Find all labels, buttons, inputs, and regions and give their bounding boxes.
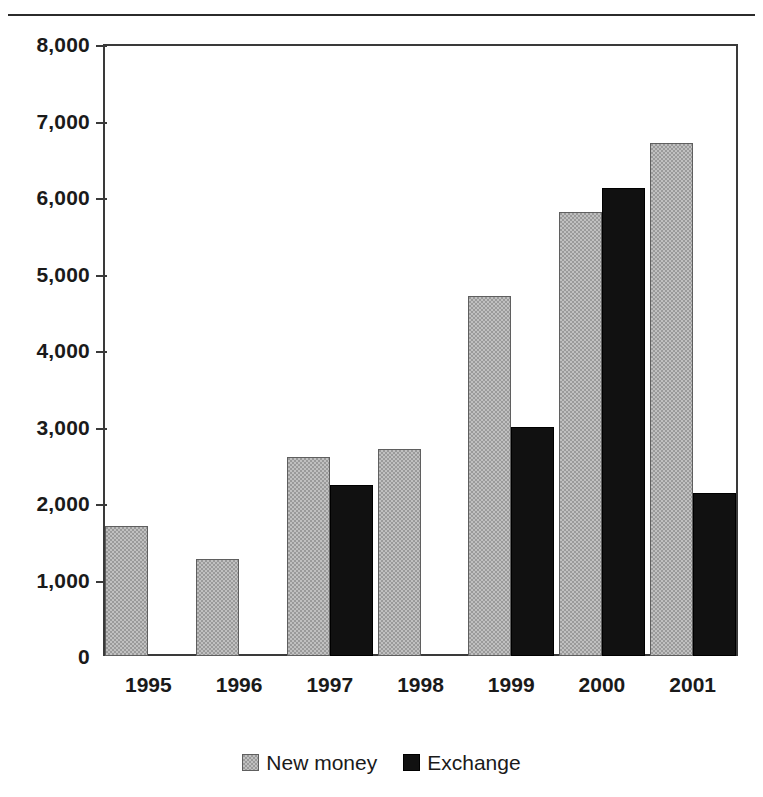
x-tick-label: 1997 [306,674,353,695]
y-axis: 01,0002,0003,0004,0005,0006,0007,0008,00… [0,0,90,797]
legend-label-exchange: Exchange [427,752,520,773]
bar-exchange [511,427,554,657]
y-tick-label: 2,000 [2,493,90,514]
bar-exchange [693,493,736,656]
bars-layer [103,44,738,656]
bar-new-money [559,212,602,656]
x-tick-label: 1998 [397,674,444,695]
x-tick-label: 2001 [669,674,716,695]
chart-legend: New money Exchange [0,752,763,773]
legend-item-exchange[interactable]: Exchange [403,752,520,773]
x-axis: 1995199619971998199920002001 [103,674,738,708]
legend-swatch-exchange-icon [403,754,420,771]
legend-swatch-new-money-icon [242,754,259,771]
y-tick-label: 5,000 [2,263,90,284]
bar-new-money [468,296,511,656]
y-tick-label: 6,000 [2,187,90,208]
y-tick-label: 4,000 [2,340,90,361]
y-tick-label: 7,000 [2,110,90,131]
y-tick-label: 3,000 [2,416,90,437]
bar-new-money [378,449,421,656]
legend-label-new-money: New money [266,752,377,773]
legend-item-new-money[interactable]: New money [242,752,377,773]
bar-new-money [196,559,239,656]
x-tick-label: 1996 [216,674,263,695]
x-tick-label: 1999 [488,674,535,695]
bar-new-money [650,143,693,656]
bar-chart-figure: 01,0002,0003,0004,0005,0006,0007,0008,00… [0,0,763,797]
y-tick-label: 8,000 [2,34,90,55]
y-tick-label: 1,000 [2,569,90,590]
y-tick-label: 0 [2,646,90,667]
bar-exchange [330,485,373,656]
bar-new-money [105,526,148,656]
x-tick-label: 2000 [579,674,626,695]
bar-exchange [602,188,645,656]
x-tick-label: 1995 [125,674,172,695]
top-horizontal-rule [8,14,755,16]
bar-new-money [287,457,330,656]
